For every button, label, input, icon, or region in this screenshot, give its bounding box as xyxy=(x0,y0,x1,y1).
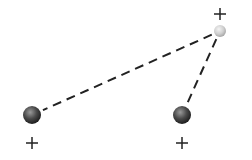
dashed-bond-1 xyxy=(43,35,212,110)
atom-bottom-right xyxy=(173,106,191,149)
dark-sphere-icon xyxy=(173,106,191,124)
dashed-bond-2 xyxy=(187,39,216,104)
light-sphere-icon xyxy=(214,25,226,37)
molecule-diagram xyxy=(0,0,252,160)
bonds xyxy=(43,35,216,110)
plus-charge-icon xyxy=(214,8,226,20)
plus-charge-icon xyxy=(26,137,38,149)
atom-top-right xyxy=(214,8,226,37)
dark-sphere-icon xyxy=(23,106,41,124)
atoms xyxy=(23,8,226,149)
plus-charge-icon xyxy=(176,137,188,149)
atom-bottom-left xyxy=(23,106,41,149)
